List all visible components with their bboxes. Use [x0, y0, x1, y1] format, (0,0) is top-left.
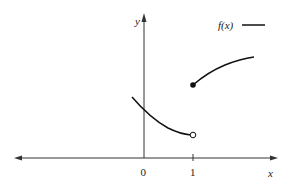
y-axis-up-arrow-icon — [142, 13, 147, 22]
x-axis — [14, 154, 278, 161]
legend: f(x) — [218, 19, 265, 32]
x-axis-left-arrow-icon — [14, 156, 22, 161]
x-axis-label: x — [267, 167, 273, 179]
legend-label-fx: f(x) — [218, 19, 234, 32]
y-axis — [142, 13, 147, 158]
curve-right-piece — [193, 57, 254, 85]
x-tick-label-0: 0 — [141, 166, 147, 178]
x-axis-right-arrow-icon — [270, 156, 278, 161]
function-graph: y 0 1 x f(x) — [0, 0, 288, 186]
y-axis-label: y — [134, 15, 140, 27]
curve-left-piece — [132, 97, 191, 135]
x-tick-label-1: 1 — [190, 166, 196, 178]
open-circle-marker — [190, 132, 196, 138]
filled-circle-marker — [190, 82, 196, 88]
